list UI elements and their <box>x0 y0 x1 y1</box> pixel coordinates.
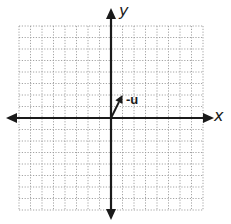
x-axis-right-arrow-icon <box>203 113 214 123</box>
axes <box>6 8 214 220</box>
y-axis-bottom-arrow-icon <box>106 209 116 220</box>
vector-line <box>111 102 119 118</box>
y-axis-top-arrow-icon <box>106 8 116 19</box>
coordinate-plane: y x -u <box>0 0 231 224</box>
vector-label: -u <box>126 93 138 106</box>
y-axis-label: y <box>119 3 128 19</box>
x-axis-left-arrow-icon <box>6 113 17 123</box>
coordinate-grid <box>0 0 231 224</box>
x-axis-label: x <box>214 108 223 124</box>
